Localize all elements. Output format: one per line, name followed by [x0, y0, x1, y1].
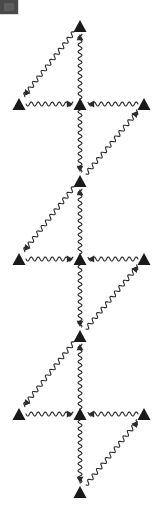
diagram-vertex: [138, 408, 151, 420]
diagram-vertex: [74, 253, 87, 265]
diagram-edge: [86, 265, 138, 329]
diagram-edge: [77, 34, 84, 99]
diagram-vertex: [13, 98, 26, 110]
diagram-edge: [26, 101, 73, 108]
diagram-edge: [26, 256, 73, 263]
diagram-edge: [77, 110, 84, 172]
diagram-vertex: [13, 408, 26, 420]
diagram-edge: [77, 420, 84, 483]
diagram-vertex: [74, 486, 87, 498]
diagram-vertex: [74, 408, 87, 420]
diagram-vertex: [13, 253, 26, 265]
diagram-edge: [88, 411, 138, 418]
diagram-edge: [77, 189, 84, 254]
feynman-diagram: [0, 0, 166, 521]
diagram-edge: [24, 32, 74, 97]
diagram-edge: [86, 110, 138, 174]
diagram-vertex: [138, 98, 151, 110]
diagram-edge: [77, 265, 84, 327]
diagram-edge: [86, 420, 138, 485]
diagram-edge: [88, 101, 138, 108]
diagram-vertex: [74, 98, 87, 110]
diagram-edge: [24, 187, 74, 252]
diagram-vertex: [138, 253, 151, 265]
diagram-canvas: [0, 0, 166, 521]
diagram-edge: [26, 411, 73, 418]
diagram-edge: [24, 342, 74, 407]
diagram-vertex: [74, 175, 87, 187]
diagram-vertex: [74, 330, 87, 342]
diagram-vertex: [74, 20, 87, 32]
diagram-edge: [77, 344, 84, 409]
diagram-edge: [88, 256, 138, 263]
